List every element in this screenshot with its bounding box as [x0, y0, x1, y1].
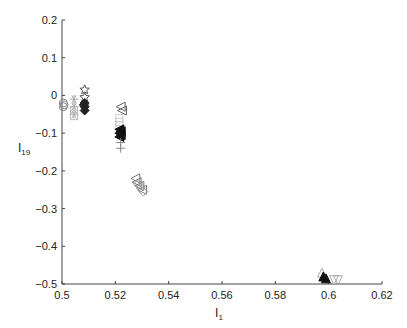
x-tick-label: 0.52 [105, 289, 126, 301]
x-tick-label: 0.6 [321, 289, 336, 301]
axes: 0.50.520.540.560.580.60.620.20.10−0.1−0.… [35, 14, 392, 301]
x-tick-label: 0.62 [371, 289, 392, 301]
x-tick-label: 0.5 [54, 289, 69, 301]
y-tick-label: 0.1 [42, 52, 57, 64]
y-tick-label: −0.3 [35, 203, 57, 215]
y-tick-label: −0.5 [35, 278, 57, 290]
x-axis-label: I1 [215, 306, 223, 322]
y-tick-label: 0.2 [42, 14, 57, 26]
y-axis-label: I19 [18, 141, 31, 157]
scatter-plot: 0.50.520.540.560.580.60.620.20.10−0.1−0.… [0, 0, 407, 328]
y-tick-label: −0.4 [35, 240, 57, 252]
data-markers [59, 85, 342, 285]
triangle-left-marker [116, 102, 125, 111]
y-tick-label: 0 [51, 89, 57, 101]
y-tick-label: −0.1 [35, 127, 57, 139]
x-tick-label: 0.58 [265, 289, 286, 301]
y-tick-label: −0.2 [35, 165, 57, 177]
x-tick-label: 0.56 [211, 289, 232, 301]
x-tick-label: 0.54 [158, 289, 179, 301]
